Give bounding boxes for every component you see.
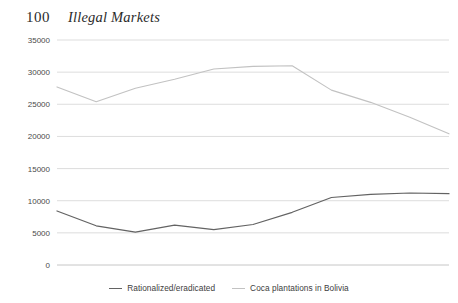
page-number: 100 — [26, 9, 50, 26]
x-axis-tick-label: 2005 — [87, 272, 105, 274]
y-axis-tick-label: 30000 — [28, 68, 51, 77]
x-axis-tick-label: 2010 — [283, 272, 301, 274]
y-axis-tick-label: 0 — [46, 261, 51, 270]
x-axis-tick-labels: 2004200520062007200820092010201120122013… — [48, 272, 458, 274]
chart-svg: 05000100001500020000250003000035000 2004… — [0, 34, 458, 274]
legend-label: Rationalized/eradicated — [127, 283, 215, 293]
y-axis-tick-label: 25000 — [28, 100, 51, 109]
y-axis-tick-label: 20000 — [28, 132, 51, 141]
x-axis-tick-label: 2012 — [362, 272, 380, 274]
chart-plot-area: 05000100001500020000250003000035000 2004… — [0, 34, 458, 274]
x-axis-tick-label: 2013 — [401, 272, 419, 274]
y-axis-tick-labels: 05000100001500020000250003000035000 — [28, 36, 51, 270]
running-head-title: Illegal Markets — [68, 9, 160, 26]
y-axis-tick-label: 15000 — [28, 165, 51, 174]
series-line — [57, 66, 449, 134]
legend-line-swatch-icon — [232, 288, 245, 289]
series-lines-group — [57, 66, 449, 233]
x-axis-tick-label: 2004 — [48, 272, 66, 274]
y-axis-tick-label: 10000 — [28, 197, 51, 206]
gridlines-group — [57, 40, 449, 265]
y-axis-tick-label: 35000 — [28, 36, 51, 45]
y-axis-tick-label: 5000 — [32, 229, 50, 238]
x-axis-tick-label: 2009 — [244, 272, 262, 274]
figure-line-chart: 05000100001500020000250003000035000 2004… — [0, 34, 458, 303]
x-axis-tick-label: 2014 — [440, 272, 458, 274]
legend-line-swatch-icon — [109, 288, 122, 289]
legend-item-coca-plantations-bolivia[interactable]: Coca plantations in Bolivia — [232, 283, 349, 293]
series-line — [57, 193, 449, 232]
x-axis-tick-label: 2011 — [323, 272, 341, 274]
chart-legend: Rationalized/eradicated Coca plantations… — [0, 277, 458, 299]
x-axis-tick-label: 2007 — [166, 272, 184, 274]
page-header: 100 Illegal Markets — [0, 0, 458, 34]
legend-item-rationalized-eradicated[interactable]: Rationalized/eradicated — [109, 283, 215, 293]
legend-label: Coca plantations in Bolivia — [250, 283, 349, 293]
x-axis-tick-label: 2006 — [127, 272, 145, 274]
x-axis-tick-label: 2008 — [205, 272, 223, 274]
